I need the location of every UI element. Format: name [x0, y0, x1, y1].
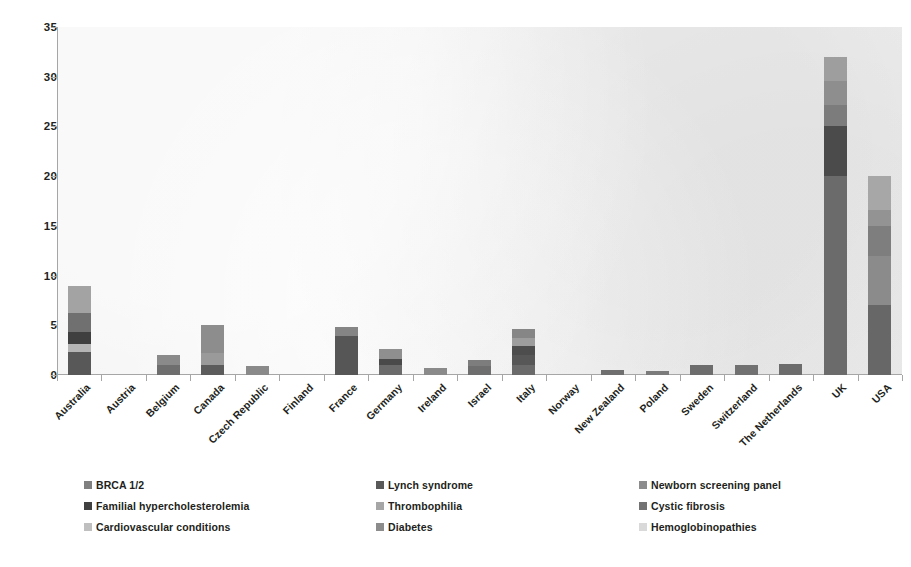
- legend-item-lynch-syndrome[interactable]: Lynch syndrome: [376, 479, 473, 491]
- legend-item-familial-hypercholesterolemia[interactable]: Familial hypercholesterolemia: [84, 500, 249, 512]
- x-axis-label-sweden: Sweden: [678, 381, 715, 418]
- stacked-bar-chart: 05101520253035 AustraliaAustriaBelgiumCa…: [0, 0, 911, 567]
- legend-label: Familial hypercholesterolemia: [96, 500, 249, 512]
- legend-label: Diabetes: [388, 521, 433, 533]
- x-axis-label-usa: USA: [869, 381, 893, 405]
- legend-label: Lynch syndrome: [388, 479, 473, 491]
- legend-swatch-icon: [84, 481, 92, 489]
- x-axis-label-israel: Israel: [465, 381, 493, 409]
- x-axis-label-belgium: Belgium: [143, 381, 181, 419]
- x-axis-label-uk: UK: [829, 381, 848, 400]
- x-axis-label-norway: Norway: [546, 381, 582, 417]
- legend-item-diabetes[interactable]: Diabetes: [376, 521, 433, 533]
- legend-swatch-icon: [376, 481, 384, 489]
- x-axis-label-italy: Italy: [514, 381, 538, 405]
- legend-swatch-icon: [84, 502, 92, 510]
- legend-label: Thrombophilia: [388, 500, 462, 512]
- legend-item-thrombophilia[interactable]: Thrombophilia: [376, 500, 462, 512]
- legend-swatch-icon: [376, 502, 384, 510]
- chart-legend: BRCA 1/2Lynch syndromeNewborn screening …: [84, 479, 884, 541]
- x-axis-label-france: France: [326, 381, 359, 414]
- legend-item-brca-1-2[interactable]: BRCA 1/2: [84, 479, 144, 491]
- legend-item-newborn-screening-panel[interactable]: Newborn screening panel: [639, 479, 781, 491]
- legend-swatch-icon: [639, 523, 647, 531]
- legend-label: Hemoglobinopathies: [651, 521, 757, 533]
- legend-item-cystic-fibrosis[interactable]: Cystic fibrosis: [639, 500, 725, 512]
- legend-label: Cystic fibrosis: [651, 500, 725, 512]
- legend-swatch-icon: [376, 523, 384, 531]
- x-axis-label-canada: Canada: [190, 381, 226, 417]
- legend-item-hemoglobinopathies[interactable]: Hemoglobinopathies: [639, 521, 757, 533]
- legend-swatch-icon: [639, 481, 647, 489]
- x-axis-label-poland: Poland: [637, 381, 671, 415]
- legend-item-cardiovascular-conditions[interactable]: Cardiovascular conditions: [84, 521, 230, 533]
- x-axis-label-germany: Germany: [363, 381, 404, 422]
- x-axis-label-austria: Austria: [103, 381, 138, 416]
- legend-swatch-icon: [639, 502, 647, 510]
- x-axis-label-australia: Australia: [52, 381, 93, 422]
- legend-swatch-icon: [84, 523, 92, 531]
- x-axis-label-ireland: Ireland: [415, 381, 448, 414]
- x-axis-label-finland: Finland: [280, 381, 315, 416]
- legend-label: Newborn screening panel: [651, 479, 781, 491]
- legend-label: Cardiovascular conditions: [96, 521, 230, 533]
- legend-label: BRCA 1/2: [96, 479, 144, 491]
